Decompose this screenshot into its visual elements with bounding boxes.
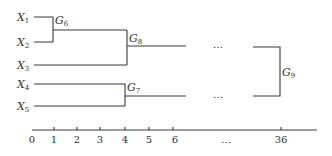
tick-label-0: 0 (29, 134, 35, 145)
leaf-label-x5: X5 (16, 100, 29, 114)
axis-tick-labels: 0 1 2 3 4 5 6 … 36 (29, 134, 288, 145)
ellipsis-lower: … (213, 89, 223, 100)
cluster-g9: G9 (253, 47, 295, 96)
leaf-label-x1: X1 (16, 11, 29, 25)
g9-bracket (253, 47, 280, 96)
cluster-g7: G7 (34, 81, 186, 106)
tick-label-5: 5 (146, 134, 152, 145)
leaf-label-x2: X2 (16, 36, 29, 50)
distance-axis: 0 1 2 3 4 5 6 … 36 (29, 127, 317, 145)
tick-label-2: 2 (74, 134, 80, 145)
node-label-g7: G7 (127, 81, 140, 95)
leaf-labels: X1 X2 X3 X4 X5 (16, 11, 30, 114)
node-label-g6: G6 (55, 14, 69, 28)
tick-label-3: 3 (97, 134, 103, 145)
node-label-g9: G9 (282, 66, 295, 80)
g6-bracket (34, 17, 53, 42)
tick-label-6: 6 (172, 134, 178, 145)
leaf-label-x4: X4 (16, 78, 30, 92)
tick-label-1: 1 (51, 134, 57, 145)
axis-ellipsis: … (221, 134, 231, 145)
leaf-label-x3: X3 (16, 59, 29, 73)
dendrogram-diagram: X1 X2 X3 X4 X5 G6 G8 G7 … … G9 (0, 0, 332, 156)
node-label-g8: G8 (129, 32, 142, 46)
ellipsis-upper: … (213, 39, 223, 50)
cluster-g6: G6 (34, 14, 127, 42)
g7-bracket (34, 84, 125, 106)
tick-label-36: 36 (275, 134, 288, 145)
tick-label-4: 4 (122, 134, 128, 145)
cluster-g8: G8 (34, 30, 186, 65)
